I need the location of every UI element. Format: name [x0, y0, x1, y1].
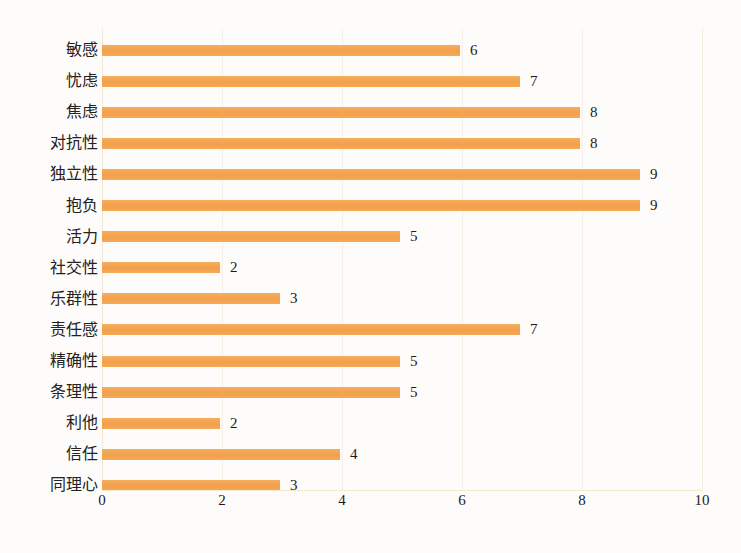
- bar-row: 7: [102, 324, 702, 335]
- bar-value-label: 2: [230, 412, 238, 434]
- bar-value-label: 5: [410, 350, 418, 372]
- bar: [102, 262, 220, 273]
- bar-row: 9: [102, 169, 702, 180]
- category-label: 敏感: [0, 41, 98, 59]
- bar: [102, 293, 280, 304]
- bar: [102, 418, 220, 429]
- bar-row: 7: [102, 76, 702, 87]
- category-label: 责任感: [0, 321, 98, 339]
- bar-value-label: 8: [590, 132, 598, 154]
- bar: [102, 107, 580, 118]
- category-label: 独立性: [0, 165, 98, 183]
- bar-row: 5: [102, 387, 702, 398]
- bar-row: 5: [102, 231, 702, 242]
- bar-row: 3: [102, 293, 702, 304]
- category-label: 精确性: [0, 352, 98, 370]
- bar-row: 6: [102, 45, 702, 56]
- bar: [102, 169, 640, 180]
- bar: [102, 387, 400, 398]
- category-label: 利他: [0, 414, 98, 432]
- horizontal-bar-chart: 678899523755243 敏感忧虑焦虑对抗性独立性抱负活力社交性乐群性责任…: [0, 0, 741, 553]
- bar-value-label: 4: [350, 443, 358, 465]
- bar: [102, 449, 340, 460]
- bar-row: 2: [102, 262, 702, 273]
- bar-row: 9: [102, 200, 702, 211]
- bar-row: 2: [102, 418, 702, 429]
- bar-value-label: 9: [650, 163, 658, 185]
- bar-value-label: 7: [530, 318, 538, 340]
- bar: [102, 356, 400, 367]
- bar-value-label: 9: [650, 194, 658, 216]
- bar-row: 8: [102, 107, 702, 118]
- category-label: 乐群性: [0, 290, 98, 308]
- bar: [102, 200, 640, 211]
- bar-value-label: 8: [590, 101, 598, 123]
- bar-row: 8: [102, 138, 702, 149]
- bar-value-label: 2: [230, 256, 238, 278]
- bar-value-label: 5: [410, 225, 418, 247]
- bar-value-label: 6: [470, 39, 478, 61]
- category-label: 焦虑: [0, 103, 98, 121]
- category-label: 忧虑: [0, 72, 98, 90]
- bar: [102, 231, 400, 242]
- bar-value-label: 5: [410, 381, 418, 403]
- bar: [102, 45, 460, 56]
- bar-row: 4: [102, 449, 702, 460]
- gridline-10: [702, 28, 703, 490]
- bar: [102, 324, 520, 335]
- x-tick-label: 10: [695, 492, 710, 509]
- category-label: 活力: [0, 228, 98, 246]
- x-axis-tick-labels: 0246810: [0, 474, 741, 504]
- category-label: 对抗性: [0, 134, 98, 152]
- category-label: 抱负: [0, 197, 98, 215]
- bar-row: 5: [102, 356, 702, 367]
- plot-area: 678899523755243 敏感忧虑焦虑对抗性独立性抱负活力社交性乐群性责任…: [102, 28, 702, 490]
- bar: [102, 138, 580, 149]
- category-label: 社交性: [0, 259, 98, 277]
- x-tick-label: 2: [218, 492, 226, 509]
- y-axis-category-labels: 敏感忧虑焦虑对抗性独立性抱负活力社交性乐群性责任感精确性条理性利他信任同理心: [0, 28, 98, 490]
- x-tick-label: 4: [338, 492, 346, 509]
- category-label: 信任: [0, 445, 98, 463]
- bar: [102, 76, 520, 87]
- category-label: 条理性: [0, 383, 98, 401]
- bar-value-label: 3: [290, 287, 298, 309]
- x-tick-label: 0: [98, 492, 106, 509]
- bar-value-label: 7: [530, 70, 538, 92]
- x-tick-label: 8: [578, 492, 586, 509]
- x-tick-label: 6: [458, 492, 466, 509]
